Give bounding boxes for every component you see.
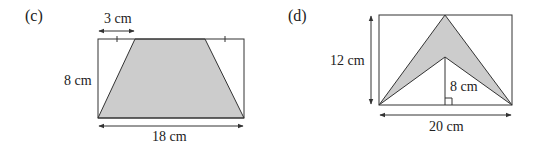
shaded-trapezium (98, 39, 244, 118)
label-18cm: 18 cm (152, 129, 187, 144)
right-angle-marker (445, 98, 452, 105)
part-label-d: (d) (288, 7, 307, 25)
label-inner-8cm: 8 cm (450, 79, 478, 94)
figure-d: (d) 12 cm 8 cm 20 cm (288, 7, 512, 134)
diagram-canvas: (c) 3 cm 8 cm 18 cm (d) 12 cm 8 cm 20 cm (0, 0, 541, 153)
label-20cm: 20 cm (429, 119, 464, 134)
label-8cm: 8 cm (64, 73, 92, 88)
label-12cm: 12 cm (330, 53, 365, 68)
part-label-c: (c) (25, 7, 43, 25)
figure-c: (c) 3 cm 8 cm 18 cm (25, 7, 244, 144)
label-3cm: 3 cm (104, 11, 132, 26)
